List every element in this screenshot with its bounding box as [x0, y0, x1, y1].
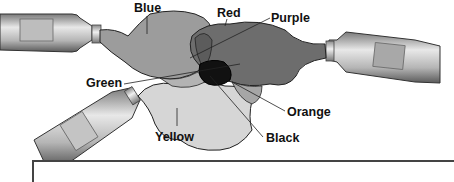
bottom-panel-border [32, 160, 454, 182]
blue-paint-tube-icon [0, 14, 101, 52]
label-orange: Orange [287, 106, 331, 119]
red-paint-tube-icon [326, 32, 440, 83]
label-blue: Blue [134, 2, 161, 15]
label-red: Red [217, 7, 241, 20]
label-green: Green [86, 77, 122, 90]
label-yellow: Yellow [155, 131, 194, 144]
label-purple: Purple [271, 12, 310, 25]
yellow-paint-tube-icon [34, 87, 140, 166]
label-black: Black [266, 132, 299, 145]
